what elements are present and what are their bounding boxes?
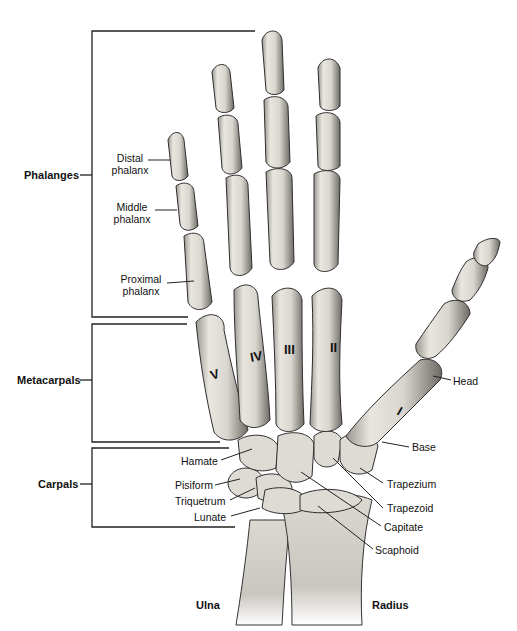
hand-skeleton-illustration: V IV III II I [0,0,517,631]
label-ulna: Ulna [196,599,220,611]
metacarpal-bones [196,285,442,446]
numeral-ii: II [330,340,337,355]
label-distal-phalanx: Distalphalanx [110,152,150,176]
group-label-phalanges: Phalanges [24,169,79,181]
label-proximal-phalanx: Proximalphalanx [118,273,164,297]
forearm-bones [236,494,372,625]
label-head: Head [453,375,478,387]
group-label-carpals: Carpals [38,478,78,490]
label-capitate: Capitate [384,521,423,533]
label-base: Base [412,441,436,453]
label-middle-phalanx: Middlephalanx [112,201,152,225]
label-scaphoid: Scaphoid [375,544,419,556]
group-label-metacarpals: Metacarpals [17,374,81,386]
label-lunate: Lunate [194,511,226,523]
label-radius: Radius [372,599,409,611]
label-hamate: Hamate [181,455,218,467]
label-trapezium: Trapezium [387,478,436,490]
label-pisiform: Pisiform [175,479,213,491]
label-trapezoid: Trapezoid [387,502,433,514]
numeral-iii: III [284,342,295,357]
label-triquetrum: Triquetrum [175,495,225,507]
